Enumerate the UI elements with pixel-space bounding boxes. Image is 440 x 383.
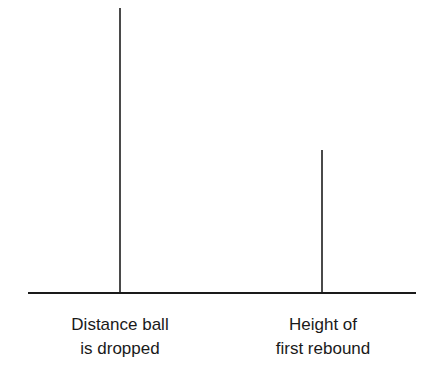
rebound-height-label-line-2: first rebound bbox=[243, 337, 403, 361]
rebound-height-label: Height of first rebound bbox=[243, 313, 403, 361]
drop-distance-label: Distance ball is dropped bbox=[40, 313, 200, 361]
ground-baseline bbox=[28, 292, 416, 294]
drop-distance-label-line-1: Distance ball bbox=[40, 313, 200, 337]
diagram-canvas: Distance ball is dropped Height of first… bbox=[0, 0, 440, 383]
rebound-height-bar bbox=[321, 150, 323, 293]
drop-distance-label-line-2: is dropped bbox=[40, 337, 200, 361]
rebound-height-label-line-1: Height of bbox=[243, 313, 403, 337]
drop-distance-bar bbox=[119, 8, 121, 293]
